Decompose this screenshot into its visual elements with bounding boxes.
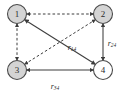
node-2: 2: [94, 5, 113, 24]
node-1-label: 1: [15, 9, 20, 19]
graph-canvas: 1 2 3 4 r14 r24 r34: [0, 0, 121, 97]
edge-label-r34: r34: [51, 82, 60, 92]
node-3-label: 3: [15, 65, 20, 75]
edge-label-r24: r24: [108, 39, 117, 49]
edge-label-r14-text: r14: [68, 43, 77, 53]
edge-label-r14-sub: 14: [71, 46, 77, 52]
edge-label-r34-text: r34: [51, 82, 60, 92]
edge-label-r34-sub: 34: [53, 85, 60, 91]
node-1: 1: [8, 5, 27, 24]
node-2-label: 2: [101, 9, 106, 19]
edge-label-r24-text: r24: [108, 39, 117, 49]
edge-label-r14: r14: [68, 43, 77, 53]
graph-diagram: 1 2 3 4 r14 r24 r34: [0, 0, 121, 97]
edge-label-r24-sub: 24: [111, 42, 117, 48]
node-4-label: 4: [101, 65, 106, 75]
node-3: 3: [8, 61, 27, 80]
edge-1-to-4: [25, 20, 96, 65]
node-4: 4: [94, 61, 113, 80]
